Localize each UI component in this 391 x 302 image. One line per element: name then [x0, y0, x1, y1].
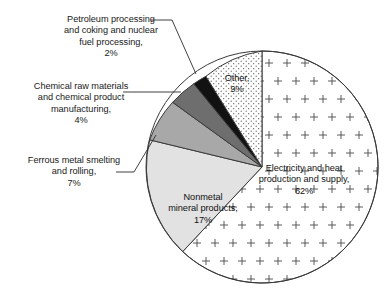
slice-label-electricity: Electricity and heat production and supp…: [240, 163, 368, 197]
pie-chart-figure: Petroleum processing and coking and nucl…: [0, 0, 391, 302]
slice-label-nonmetal: Nonmetal mineral products, 17%: [155, 192, 251, 226]
callout-label-chemical: Chemical raw materials and chemical prod…: [6, 81, 156, 127]
callout-label-petroleum: Petroleum processing and coking and nucl…: [40, 14, 182, 60]
callout-label-ferrous: Ferrous metal smelting and rolling, 7%: [4, 155, 144, 189]
slice-label-other: Other, 9%: [213, 73, 261, 96]
